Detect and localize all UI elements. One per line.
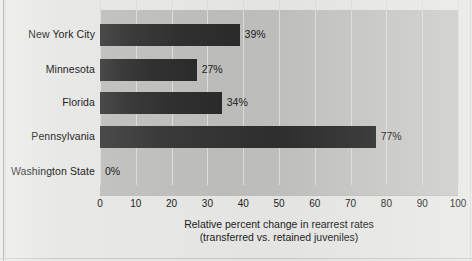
bar-value-label: 27% <box>202 63 223 75</box>
gridline-80 <box>386 0 387 185</box>
bar-value-label: 0% <box>105 165 120 177</box>
figure-border-left <box>3 0 4 261</box>
x-tick-label-40: 40 <box>238 198 249 209</box>
x-tick-label-10: 10 <box>130 198 141 209</box>
y-tick-label: New York City <box>28 28 95 40</box>
figure-border-left-inner <box>5 0 6 261</box>
bar-value-label: 34% <box>227 96 248 108</box>
y-tick-label: Florida <box>62 96 95 108</box>
x-axis-title-line1: Relative percent change in rearrest rate… <box>184 218 374 230</box>
figure-border-bottom <box>0 258 472 259</box>
gridline-90 <box>422 0 423 185</box>
bar <box>100 24 240 46</box>
x-tick-label-80: 80 <box>381 198 392 209</box>
y-tick-label: Washington State <box>11 165 95 177</box>
bar <box>100 92 222 114</box>
figure-border-right <box>470 0 471 261</box>
x-axis-title-line2: (transferred vs. retained juveniles) <box>100 231 458 244</box>
x-axis-line <box>100 195 458 196</box>
x-tick-label-60: 60 <box>309 198 320 209</box>
x-tick-label-30: 30 <box>202 198 213 209</box>
y-tick-label: Pennsylvania <box>31 130 95 142</box>
bar <box>100 126 376 148</box>
y-tick-label: Minnesota <box>46 63 95 75</box>
gridline-50 <box>279 0 280 185</box>
bar-value-label: 77% <box>381 130 402 142</box>
bar <box>100 59 197 81</box>
x-tick-label-20: 20 <box>166 198 177 209</box>
gridline-60 <box>315 0 316 185</box>
bar-value-label: 39% <box>245 28 266 40</box>
x-tick-label-70: 70 <box>345 198 356 209</box>
x-tick-label-100: 100 <box>450 198 467 209</box>
x-axis-title: Relative percent change in rearrest rate… <box>100 218 458 244</box>
x-tick-label-0: 0 <box>97 198 103 209</box>
x-tick-label-90: 90 <box>417 198 428 209</box>
gridline-100 <box>458 0 459 185</box>
gridline-70 <box>351 0 352 185</box>
chart-figure: New York CityMinnesotaFloridaPennsylvani… <box>0 0 472 261</box>
x-tick-label-50: 50 <box>273 198 284 209</box>
